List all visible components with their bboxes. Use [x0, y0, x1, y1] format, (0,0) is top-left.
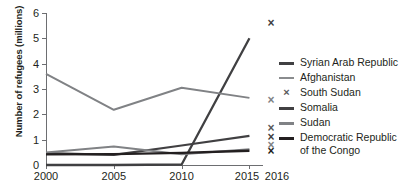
legend-item-0[interactable]: Syrian Arab Republic	[279, 56, 414, 70]
line-series-0	[46, 38, 249, 165]
lines-group	[46, 38, 249, 165]
legend-line-swatch-icon	[279, 116, 294, 130]
y-tick-label-2: 2	[33, 108, 39, 120]
legend-line-swatch-icon	[279, 71, 294, 85]
chart-container: Number of refugees (millions) 6 5 4 3 2 …	[0, 0, 414, 196]
legend-item-label: Syrian Arab Republic	[300, 56, 398, 69]
legend-item-4[interactable]: Sudan	[279, 116, 414, 130]
y-tick-label-3: 3	[33, 83, 39, 95]
x-tick-label-2010: 2010	[169, 170, 193, 182]
y-tick-label-5: 5	[33, 32, 39, 44]
legend-item-label: South Sudan	[300, 86, 361, 99]
series-layer: ××××××	[46, 13, 263, 165]
x-tick-label-2016: 2016	[265, 170, 289, 182]
legend-line-swatch-icon	[279, 101, 294, 115]
plot-area: 6 5 4 3 2 1 0 2000 2005 2010 2015 2016 ×…	[46, 13, 263, 165]
legend-item-label: Afghanistan	[300, 71, 355, 84]
legend-item-2[interactable]: ×South Sudan	[279, 86, 414, 100]
line-swatch-icon	[279, 62, 294, 65]
legend-item-5[interactable]: Democratic Republic of the Congo	[279, 131, 414, 156]
legend-item-label: Sudan	[300, 116, 330, 129]
y-tick-label-6: 6	[33, 7, 39, 19]
legend-line-swatch-icon	[279, 131, 294, 145]
markers-group: ××××××	[267, 16, 274, 158]
legend: Syrian Arab RepublicAfghanistan×South Su…	[279, 56, 414, 158]
x-tick-2015	[249, 165, 250, 169]
y-tick-label-1: 1	[33, 134, 39, 146]
x-marker-icon: ×	[279, 86, 294, 100]
marker-2016-series-1: ×	[267, 93, 274, 107]
y-tick-label-4: 4	[33, 58, 39, 70]
legend-item-label: Democratic Republic of the Congo	[300, 131, 397, 156]
legend-item-label: Somalia	[300, 101, 338, 114]
legend-x-marker-icon: ×	[279, 86, 294, 100]
y-axis-title: Number of refugees (millions)	[13, 0, 24, 152]
line-series-1	[46, 74, 249, 110]
legend-item-1[interactable]: Afghanistan	[279, 71, 414, 85]
legend-item-3[interactable]: Somalia	[279, 101, 414, 115]
line-swatch-icon	[279, 122, 294, 124]
x-tick-label-2005: 2005	[102, 170, 126, 182]
marker-2016-series-5: ×	[267, 144, 274, 158]
x-tick-label-2000: 2000	[34, 170, 58, 182]
marker-2016-series-0: ×	[267, 16, 274, 30]
line-swatch-icon	[279, 137, 294, 140]
line-swatch-icon	[279, 77, 294, 79]
line-swatch-icon	[279, 107, 294, 110]
legend-line-swatch-icon	[279, 56, 294, 70]
x-tick-label-2015: 2015	[235, 170, 259, 182]
